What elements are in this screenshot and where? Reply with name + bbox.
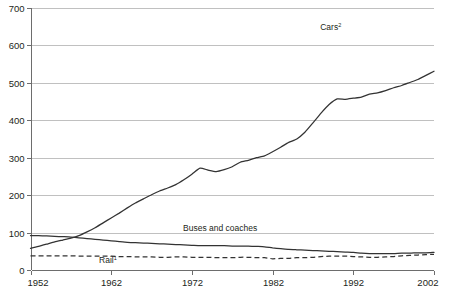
series-label-text: Buses and coaches bbox=[183, 223, 257, 233]
x-axis-tick-label: 1972 bbox=[182, 277, 203, 288]
y-axis-tick-label: 400 bbox=[9, 115, 25, 126]
y-axis-labels: 0100200300400500600700 bbox=[9, 3, 25, 276]
x-axis-labels: 195219621972198219922002 bbox=[28, 277, 439, 288]
chart-canvas: 0100200300400500600700 19521962197219821… bbox=[0, 0, 450, 294]
y-axis-tick-label: 300 bbox=[9, 153, 25, 164]
series-line-rail bbox=[31, 254, 435, 258]
x-axis-tick-label: 1952 bbox=[28, 277, 49, 288]
series-label-text: Cars bbox=[320, 22, 338, 32]
series-labels: Cars2Buses and coachesRail1 bbox=[99, 22, 341, 264]
x-axis-tick-label: 1962 bbox=[101, 277, 122, 288]
y-axis-tick-label: 200 bbox=[9, 190, 25, 201]
y-axis-tick-label: 500 bbox=[9, 78, 25, 89]
x-axis-tick-label: 2002 bbox=[417, 277, 438, 288]
gridlines bbox=[31, 9, 435, 234]
x-axis-tick-label: 1982 bbox=[263, 277, 284, 288]
y-axis-tickmarks bbox=[27, 9, 31, 271]
y-axis-tick-label: 100 bbox=[9, 228, 25, 239]
series-label-footnote-marker: 1 bbox=[114, 255, 117, 261]
series-line-buses-and-coaches bbox=[31, 236, 435, 254]
series-label-rail: Rail1 bbox=[99, 255, 117, 265]
series-label-footnote-marker: 2 bbox=[338, 22, 341, 28]
y-axis-tick-label: 600 bbox=[9, 40, 25, 51]
y-axis-tick-label: 0 bbox=[19, 265, 24, 276]
series-label-cars: Cars2 bbox=[320, 22, 341, 32]
y-axis-tick-label: 700 bbox=[9, 3, 25, 14]
x-axis-tick-label: 1992 bbox=[343, 277, 364, 288]
series-label-buses-and-coaches: Buses and coaches bbox=[183, 223, 257, 233]
x-axis bbox=[32, 271, 435, 275]
series-label-text: Rail bbox=[99, 255, 114, 265]
line-chart: 0100200300400500600700 19521962197219821… bbox=[0, 0, 450, 294]
